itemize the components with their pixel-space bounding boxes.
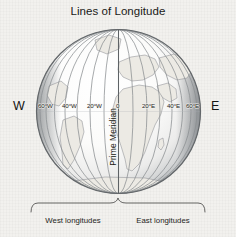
page-title: Lines of Longitude	[0, 5, 236, 17]
globe-graphic	[35, 28, 202, 195]
earth-globe	[35, 28, 202, 195]
east-brace	[118, 198, 205, 212]
east-longitudes-caption: East longitudes	[118, 216, 208, 225]
meridian-label-60e: 60°E	[186, 102, 199, 109]
west-brace	[31, 198, 118, 212]
meridian-label-60w: 60°W	[38, 102, 53, 109]
meridian-label-40w: 40°W	[62, 102, 77, 109]
meridian-label-40e: 40°E	[167, 102, 180, 109]
meridian-label-20e: 20°E	[142, 102, 155, 109]
east-hemisphere-marker: E	[211, 99, 219, 113]
prime-meridian-label: Prime Meridian	[108, 108, 118, 166]
hemisphere-braces	[0, 198, 236, 215]
longitude-diagram: Lines of Longitude	[0, 0, 236, 237]
west-hemisphere-marker: W	[13, 99, 25, 113]
meridian-label-20w: 20°W	[87, 102, 102, 109]
west-longitudes-caption: West longitudes	[28, 216, 118, 225]
